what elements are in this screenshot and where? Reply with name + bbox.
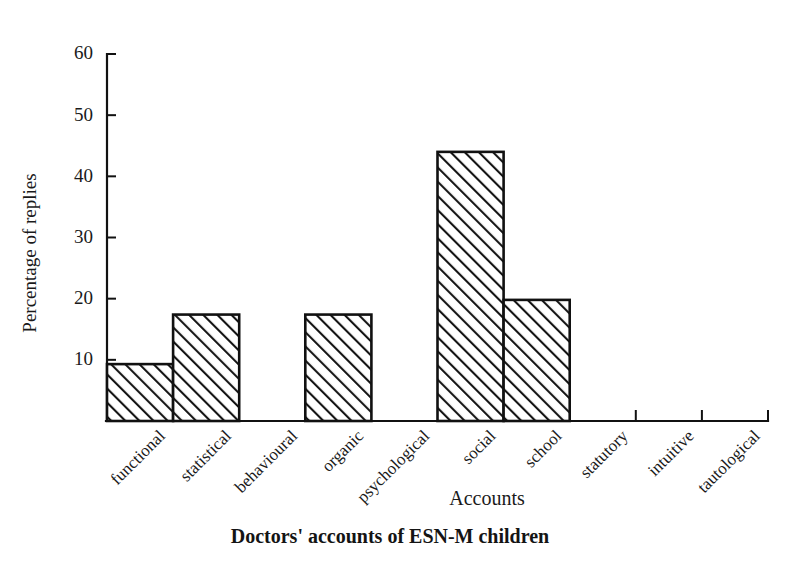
y-tick-label: 40 — [74, 165, 93, 186]
y-tick-label: 60 — [74, 42, 93, 63]
bar-organic — [305, 315, 371, 421]
bar-statistical — [173, 315, 239, 421]
y-axis-title: Percentage of replies — [19, 173, 40, 332]
chart-figure: 102030405060 functionalstatisticalbehavi… — [0, 0, 795, 563]
bar-chart-svg: 102030405060 functionalstatisticalbehavi… — [0, 0, 795, 563]
x-axis-title: Accounts — [449, 487, 525, 509]
figure-caption: Doctors' accounts of ESN-M children — [231, 525, 550, 547]
y-tick-label: 50 — [74, 104, 93, 125]
y-tick-label: 10 — [74, 348, 93, 369]
bar-functional — [107, 364, 173, 421]
y-tick-label: 30 — [74, 226, 93, 247]
y-tick-label: 20 — [74, 287, 93, 308]
bar-school — [504, 300, 570, 421]
bar-social — [438, 152, 504, 421]
